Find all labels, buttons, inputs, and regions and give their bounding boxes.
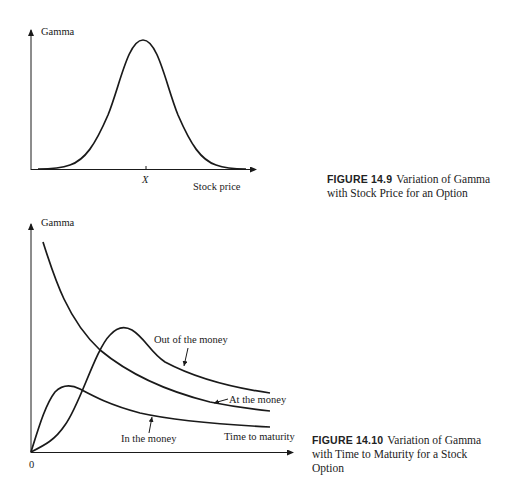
figure-14-10-caption: FIGURE 14.10Variation of Gamma with Time… xyxy=(312,433,517,475)
in-the-money-label: In the money xyxy=(121,433,177,444)
figure-number: FIGURE 14.9 xyxy=(327,173,392,185)
caption-text-line2: with Time to Maturity for a Stock xyxy=(312,448,467,460)
caption-text-line1: Variation of Gamma xyxy=(396,173,490,185)
y-axis-label: Gamma xyxy=(41,26,75,37)
x-axis-label: Time to maturity xyxy=(224,431,296,442)
x-axis-label: Stock price xyxy=(193,181,241,192)
figure-14-9-chart: Gamma X Stock price xyxy=(31,26,256,192)
out-of-the-money-label: Out of the money xyxy=(154,334,229,345)
origin-label: 0 xyxy=(29,459,34,470)
x-tick-label: X xyxy=(141,174,149,185)
figure-14-10-chart: Gamma 0 Time to maturity Out of the mone… xyxy=(29,217,296,470)
out-of-the-money-pointer xyxy=(184,348,188,366)
in-the-money-pointer xyxy=(149,417,152,433)
caption-text-line2: with Stock Price for an Option xyxy=(327,187,468,199)
caption-text-line1: Variation of Gamma xyxy=(387,434,481,446)
at-the-money-pointer xyxy=(214,399,228,403)
figure-number: FIGURE 14.10 xyxy=(312,434,383,446)
y-axis-label: Gamma xyxy=(41,217,75,228)
at-the-money-label: At the money xyxy=(229,394,287,405)
gamma-curve xyxy=(38,40,246,169)
caption-text-line3: Option xyxy=(312,462,344,474)
figure-14-9-caption: FIGURE 14.9Variation of Gamma with Stock… xyxy=(327,172,517,200)
at-the-money-curve xyxy=(43,242,270,411)
figures-canvas: Gamma X Stock price Gamma 0 Time to matu… xyxy=(0,0,520,489)
